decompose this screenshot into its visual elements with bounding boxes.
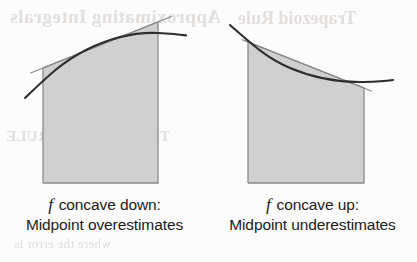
panel-concave-down: f concave down: Midpoint overestimates: [0, 0, 209, 262]
shaded-region-midpoint: [43, 22, 158, 183]
caption-line-2: Midpoint underestimates: [208, 215, 417, 235]
figure-panels: f concave down: Midpoint overestimates f…: [0, 0, 417, 262]
caption-line-2: Midpoint overestimates: [0, 215, 209, 235]
caption-line-1: f concave up:: [208, 194, 417, 215]
shaded-region-midpoint: [248, 42, 364, 183]
caption-line-1: f concave down:: [0, 194, 209, 215]
caption-concavity-text: concave up:: [272, 196, 359, 213]
plot-concave-up: [208, 0, 417, 190]
panel-concave-up: f concave up: Midpoint underestimates: [208, 0, 417, 262]
plot-concave-down: [0, 0, 209, 190]
caption-concavity-text: concave down:: [54, 196, 160, 213]
figure-root: Approximating Integrals THE MIDPOINT RUL…: [0, 0, 417, 262]
